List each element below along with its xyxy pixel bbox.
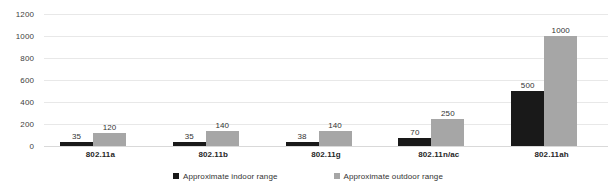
bar-value-label: 140 [206, 121, 239, 130]
bar-indoor[interactable]: 35 [60, 14, 93, 146]
bar-value-label: 35 [60, 132, 93, 141]
bar-value-label: 38 [286, 132, 319, 141]
bar-rect[interactable] [319, 131, 352, 146]
bar-outdoor[interactable]: 140 [206, 14, 239, 146]
bar-group: 38140 [270, 14, 383, 146]
y-axis-tick-label: 800 [20, 54, 34, 63]
y-axis: 020040060080010001200 [0, 0, 40, 192]
bar-rect[interactable] [431, 119, 464, 147]
bar-outdoor[interactable]: 1000 [544, 14, 577, 146]
legend-item-indoor[interactable]: Approximate indoor range [173, 172, 277, 181]
bar-rect[interactable] [60, 142, 93, 146]
bar-value-label: 70 [398, 128, 431, 137]
bar-group: 70250 [382, 14, 495, 146]
bar-indoor[interactable]: 70 [398, 14, 431, 146]
bar-value-label: 250 [431, 109, 464, 118]
x-axis-category-labels: 802.11a802.11b802.11g802.11n/ac802.11ah [44, 148, 608, 164]
gridline [44, 146, 608, 147]
bar-value-label: 1000 [544, 26, 577, 35]
bar-rect[interactable] [398, 138, 431, 146]
bar-indoor[interactable]: 38 [286, 14, 319, 146]
y-axis-tick-label: 400 [20, 98, 34, 107]
bar-rect[interactable] [173, 142, 206, 146]
bar-chart: 020040060080010001200 351203514038140702… [0, 0, 616, 192]
bar-rect[interactable] [544, 36, 577, 146]
bar-groups: 351203514038140702505001000 [44, 14, 608, 146]
bar-value-label: 120 [93, 123, 126, 132]
bar-group: 35120 [44, 14, 157, 146]
legend-item-label: Approximate outdoor range [344, 172, 443, 181]
bar-indoor[interactable]: 35 [173, 14, 206, 146]
bar-outdoor[interactable]: 120 [93, 14, 126, 146]
y-axis-tick-label: 600 [20, 76, 34, 85]
y-axis-tick-label: 1000 [16, 32, 34, 41]
x-axis-tick-label: 802.11n/ac [382, 150, 495, 159]
legend-item-outdoor[interactable]: Approximate outdoor range [334, 172, 443, 181]
outdoor-swatch-icon [334, 173, 340, 179]
y-axis-tick-label: 1200 [16, 10, 34, 19]
y-axis-tick-label: 0 [29, 142, 34, 151]
x-axis-tick-label: 802.11g [270, 150, 383, 159]
bar-rect[interactable] [511, 91, 544, 146]
bar-indoor[interactable]: 500 [511, 14, 544, 146]
bar-group: 5001000 [495, 14, 608, 146]
x-axis-tick-label: 802.11b [157, 150, 270, 159]
indoor-swatch-icon [173, 173, 179, 179]
legend-item-label: Approximate indoor range [183, 172, 277, 181]
y-axis-tick-label: 200 [20, 120, 34, 129]
bar-value-label: 35 [173, 132, 206, 141]
x-axis-tick-label: 802.11a [44, 150, 157, 159]
bar-outdoor[interactable]: 140 [319, 14, 352, 146]
bar-rect[interactable] [206, 131, 239, 146]
bar-outdoor[interactable]: 250 [431, 14, 464, 146]
x-axis-tick-label: 802.11ah [495, 150, 608, 159]
chart-legend: Approximate indoor range Approximate out… [0, 169, 616, 183]
bar-value-label: 500 [511, 81, 544, 90]
bar-value-label: 140 [319, 121, 352, 130]
bar-rect[interactable] [286, 142, 319, 146]
bar-group: 35140 [157, 14, 270, 146]
bar-rect[interactable] [93, 133, 126, 146]
